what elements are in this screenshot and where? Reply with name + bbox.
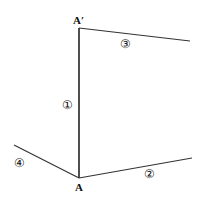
line-label-1: ① (62, 98, 73, 112)
line-3-top-right (79, 28, 190, 41)
line-label-3: ③ (120, 37, 131, 51)
line-2-bottom-right (79, 158, 192, 178)
point-label-a-prime: A′ (73, 14, 84, 26)
point-label-a: A (75, 181, 83, 193)
line-label-2: ② (144, 167, 155, 181)
diagram-canvas: A′ A ① ② ③ ④ (0, 0, 203, 199)
line-label-4: ④ (14, 156, 25, 170)
